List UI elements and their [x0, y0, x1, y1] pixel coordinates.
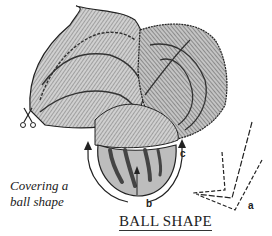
label-b: b: [146, 198, 152, 209]
label-c: c: [180, 148, 186, 159]
caption-line-1: Covering a: [10, 178, 68, 194]
label-a: a: [248, 200, 254, 211]
figure-caption: Covering a ball shape: [10, 178, 68, 210]
figure-title: BALL SHAPE: [119, 213, 212, 231]
caption-line-2: ball shape: [10, 194, 68, 210]
corner-fold-diagram: [193, 122, 262, 210]
